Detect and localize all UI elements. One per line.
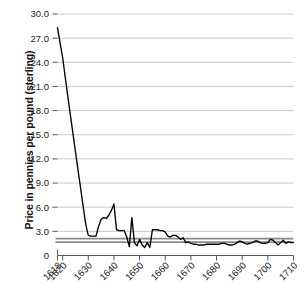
x-tick-label: 1690 [225, 260, 248, 283]
x-axis-tick-labels: 1618162016301640165016601670168016901700… [41, 256, 300, 283]
line-chart-plot: 30.027.024.021.018.015.012.09.06.03.00 1… [0, 0, 305, 296]
x-axis-line-group [58, 250, 294, 256]
price-series-line [58, 28, 294, 248]
x-tick-label: 1660 [148, 260, 171, 283]
y-tick-label: 30.0 [31, 8, 50, 19]
chart-container: Price in pennies per pound (sterling) 30… [0, 0, 305, 296]
x-tick-label: 1630 [71, 260, 94, 283]
gridlines-group [58, 14, 294, 231]
y-tick-label: 15.0 [31, 129, 50, 140]
x-tick-label: 1620 [46, 260, 69, 283]
x-tick-label: 1670 [174, 260, 197, 283]
y-tick-label: 3.0 [36, 226, 49, 237]
y-tick-label: 0 [44, 250, 49, 261]
y-tick-label: 18.0 [31, 105, 50, 116]
y-tick-label: 6.0 [36, 202, 49, 213]
x-tick-label: 1680 [200, 260, 223, 283]
x-tick-label: 1640 [97, 260, 120, 283]
y-tick-label: 27.0 [31, 33, 50, 44]
x-tick-label: 1700 [251, 260, 274, 283]
y-axis-tick-labels: 30.027.024.021.018.015.012.09.06.03.00 [31, 8, 58, 261]
x-tick-label: 1650 [123, 260, 146, 283]
x-tick-label: 1710 [277, 260, 300, 283]
y-tick-label: 9.0 [36, 177, 49, 188]
y-tick-label: 24.0 [31, 57, 50, 68]
y-tick-label: 12.0 [31, 153, 50, 164]
y-tick-label: 21.0 [31, 81, 50, 92]
